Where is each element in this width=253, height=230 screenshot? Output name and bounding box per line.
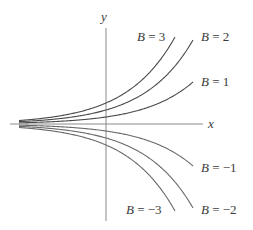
y-axis-label: y	[101, 10, 107, 23]
curve-label-b2: B = 2	[201, 30, 229, 43]
curve-b3	[19, 37, 175, 121]
curve-label-bneg1: B = −1	[201, 161, 237, 174]
exponential-family-figure: y x B = 3 B = 2 B = 1 B = −1 B = −2 B = …	[0, 0, 253, 230]
curve-label-b3: B = 3	[137, 30, 165, 43]
curve-bneg3	[19, 128, 175, 212]
curve-label-bneg3: B = −3	[126, 203, 162, 216]
curve-label-bneg2: B = −2	[201, 203, 237, 216]
curve-label-b1: B = 1	[201, 75, 229, 88]
x-axis-label: x	[208, 117, 214, 130]
